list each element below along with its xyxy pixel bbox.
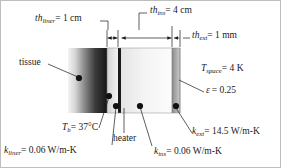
- callout-label-k-liner: kliner= 0.06 W/m-K: [4, 146, 77, 156]
- dimension-label-th-ext: thext= 1 mm: [192, 31, 237, 41]
- dot-k-ext: [173, 103, 179, 109]
- callout-label-t-space-sub: space: [206, 67, 221, 74]
- callout-label-t-b-sub: b: [67, 126, 70, 133]
- leader-k-ext: [176, 108, 192, 133]
- callout-label-heater: heater: [113, 134, 136, 144]
- dot-tb: [106, 93, 112, 99]
- callout-label-t-b: Tb= 37°C: [62, 123, 98, 133]
- layer-tissue: [68, 48, 107, 113]
- callout-label-t-space-value: = 4 K: [222, 63, 244, 73]
- layer-heater: [118, 48, 121, 113]
- dimension-lines: [107, 26, 180, 47]
- layer-stack: [68, 48, 180, 113]
- dimension-label-th-liner-value: = 1 cm: [55, 13, 81, 23]
- dimension-label-th-liner: thliner= 1 cm: [35, 14, 82, 24]
- callout-label-t-space: Tspace= 4 K: [201, 64, 244, 74]
- diagram-svg: [0, 0, 281, 168]
- callout-label-k-ins-value: = 0.06 W/m-K: [166, 146, 222, 156]
- dimension-label-th-ins-value: = 4 cm: [165, 5, 191, 15]
- callout-label-emissivity-value: = 0.25: [212, 85, 236, 95]
- dot-k-ins: [137, 103, 143, 109]
- dimension-label-th-ext-value: = 1 mm: [207, 30, 237, 40]
- dimension-label-th-ext-sub: ext: [199, 34, 207, 41]
- callout-label-k-ext-value: = 14.5 W/m-K: [204, 126, 260, 136]
- callout-label-k-liner-value: = 0.06 W/m-K: [21, 145, 77, 155]
- callout-label-k-ext-sub: ext: [196, 130, 204, 137]
- leader-emissivity: [179, 80, 204, 92]
- figure-canvas: thliner= 1 cm thins= 4 cm thext= 1 mm ti…: [0, 0, 281, 168]
- callout-label-k-liner-sub: liner: [8, 149, 21, 156]
- dimension-label-th-ins: thins= 4 cm: [150, 6, 192, 16]
- dimension-label-th-liner-sub: liner: [42, 17, 55, 24]
- callout-label-t-b-value: = 37°C: [71, 122, 98, 132]
- callout-label-tissue: tissue: [19, 58, 41, 68]
- callout-label-k-ins: kins= 0.06 W/m-K: [154, 147, 222, 157]
- dimension-label-th-ins-sub: ins: [157, 9, 165, 16]
- callout-label-emissivity: ε= 0.25: [206, 86, 236, 96]
- callout-label-emissivity-sym: ε: [206, 85, 210, 95]
- leader-th-liner: [100, 21, 108, 30]
- callout-label-k-ext: kext= 14.5 W/m-K: [192, 127, 260, 137]
- callout-label-k-ins-sub: ins: [158, 150, 166, 157]
- layer-insulation: [121, 48, 172, 113]
- dot-tissue: [76, 75, 82, 81]
- leader-th-ins: [139, 13, 147, 30]
- dot-k-liner: [113, 103, 119, 109]
